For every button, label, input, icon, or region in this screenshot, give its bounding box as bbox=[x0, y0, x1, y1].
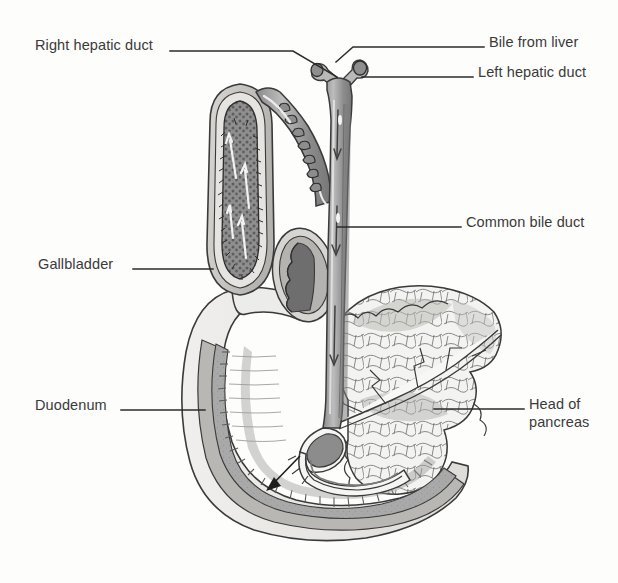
label-bile-from-liver: Bile from liver bbox=[489, 33, 578, 51]
gallbladder-body bbox=[207, 84, 274, 295]
label-common-bile-duct: Common bile duct bbox=[466, 213, 584, 231]
anatomy-illustration bbox=[0, 0, 618, 583]
label-duodenum: Duodenum bbox=[35, 396, 107, 414]
label-left-hepatic-duct: Left hepatic duct bbox=[478, 63, 586, 81]
pancreas bbox=[336, 286, 501, 494]
label-head-of-pancreas: Head of pancreas bbox=[529, 395, 589, 431]
label-gallbladder: Gallbladder bbox=[38, 255, 113, 273]
figure-canvas: Right hepatic duct Bile from liver Left … bbox=[0, 0, 618, 583]
label-right-hepatic-duct: Right hepatic duct bbox=[35, 36, 153, 54]
